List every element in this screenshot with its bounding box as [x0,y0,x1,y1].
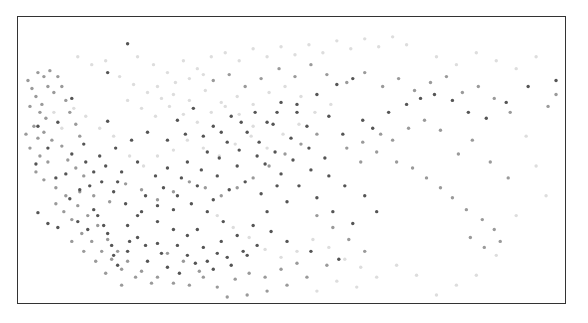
data-point [230,264,233,267]
data-point [126,99,129,102]
data-point [323,156,326,159]
data-point [445,75,448,78]
data-point [98,154,101,157]
data-point [218,156,221,159]
series-light [52,35,548,297]
data-point [295,111,298,114]
data-point [309,168,312,171]
data-point [433,93,436,96]
data-point [196,121,199,124]
data-point [361,119,364,122]
data-point [331,226,334,229]
data-point [259,77,262,80]
data-point [26,79,29,82]
data-point [112,254,115,257]
data-point [56,226,59,229]
data-point [176,244,179,247]
data-point [28,146,31,149]
data-point [96,214,99,217]
data-point [321,51,324,54]
data-point [178,272,181,275]
data-point [295,262,298,265]
data-point [253,111,256,114]
data-point [114,146,117,149]
data-point [82,142,85,145]
data-point [243,180,246,183]
data-point [307,43,310,46]
data-point [96,224,99,227]
data-point [216,174,219,177]
data-point [285,283,288,286]
data-point [212,79,215,82]
data-point [343,258,346,261]
data-point [331,210,334,213]
data-point [355,285,358,288]
data-point [186,160,189,163]
data-point [279,268,282,271]
data-point [481,218,484,221]
data-point [146,260,149,263]
data-point [267,164,270,167]
data-point [263,275,266,278]
data-point [70,152,73,155]
data-point [124,202,127,205]
data-point [86,228,89,231]
data-point [174,81,177,84]
data-point [546,105,549,108]
data-point [42,75,45,78]
data-point [363,71,366,74]
data-point [32,125,35,128]
data-point [249,134,252,137]
data-point [104,164,107,167]
data-point [124,182,127,185]
data-point [116,250,119,253]
data-point [192,107,195,110]
data-point [220,194,223,197]
data-point [72,107,75,110]
data-point [411,166,414,169]
data-point [46,222,49,225]
data-point [315,132,318,135]
data-point [439,129,442,132]
data-point [325,264,328,267]
data-point [136,236,139,239]
data-point [220,240,223,243]
data-point [52,111,55,114]
data-point [423,119,426,122]
data-point [196,228,199,231]
data-point [465,208,468,211]
data-point [236,186,239,189]
data-point [42,131,45,134]
data-point [363,250,366,253]
data-point [126,250,129,253]
data-point [210,55,213,58]
data-point [405,103,408,106]
data-point [62,210,65,213]
data-point [98,127,101,130]
data-point [68,197,71,200]
data-point [196,184,199,187]
data-point [455,63,458,66]
data-point [106,238,109,241]
data-point [206,150,209,153]
data-point [166,266,169,269]
data-point [236,164,239,167]
data-point [451,196,454,199]
data-point [335,83,338,86]
data-point [110,258,113,261]
data-point [116,180,119,183]
data-point [263,248,266,251]
data-point [142,164,145,167]
data-point [54,202,57,205]
data-point [247,272,250,275]
data-point [299,95,302,98]
data-point [140,188,143,191]
data-point [315,289,318,292]
data-point [313,111,316,114]
data-point [295,250,298,253]
data-point [243,85,246,88]
data-point [307,146,310,149]
data-point [237,148,240,151]
data-point [309,63,312,66]
data-point [381,85,384,88]
